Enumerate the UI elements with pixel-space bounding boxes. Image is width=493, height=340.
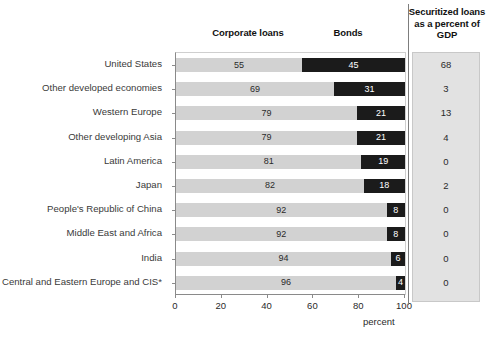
x-axis-tick-label: 20	[216, 300, 227, 311]
bar-segment-corporate-loans: 92	[176, 227, 387, 241]
bar-segment-bonds: 18	[364, 179, 405, 193]
x-axis-tick	[221, 294, 222, 298]
bar-segment-bonds: 31	[334, 82, 405, 96]
bar-segment-bonds: 6	[391, 252, 405, 266]
header-securitized-loans-percent-gdp: Securitized loans as a percent of GDP	[404, 6, 490, 41]
gdp-percent-value: 0	[413, 222, 479, 246]
bar-segment-corporate-loans: 96	[176, 276, 396, 290]
bar-segment-corporate-loans: 94	[176, 252, 391, 266]
stacked-bar: 7921	[176, 131, 405, 145]
bar-segment-corporate-loans: 79	[176, 106, 357, 120]
bar-segment-bonds: 4	[396, 276, 405, 290]
stacked-bar: 6931	[176, 82, 405, 96]
x-axis-tick	[358, 294, 359, 298]
stacked-bar: 7921	[176, 106, 405, 120]
bar-segment-corporate-loans: 82	[176, 179, 364, 193]
bar-segment-corporate-loans: 69	[176, 82, 334, 96]
bar-value-label: 92	[276, 230, 286, 239]
x-axis-tick	[312, 294, 313, 298]
bar-value-label: 21	[376, 133, 386, 142]
category-label-list: United StatesOther developed economiesWe…	[0, 52, 168, 294]
x-axis-tick-label: 60	[307, 300, 318, 311]
category-label: United States	[0, 52, 168, 76]
gdp-percent-column: 683134020000	[412, 52, 480, 302]
bar-value-label: 8	[393, 206, 398, 215]
gdp-percent-value: 4	[413, 126, 479, 150]
x-axis-tick-label: 40	[261, 300, 272, 311]
stacked-bar: 8218	[176, 179, 405, 193]
bar-value-label: 6	[396, 254, 401, 263]
x-axis-tick	[175, 294, 176, 298]
bar-value-label: 31	[364, 85, 374, 94]
x-axis: 020406080100	[175, 294, 405, 295]
gdp-percent-value: 3	[413, 77, 479, 101]
bar-value-label: 81	[264, 157, 274, 166]
category-label: Japan	[0, 173, 168, 197]
bar-segment-bonds: 21	[357, 131, 405, 145]
stacked-bar-chart-plot: 554569317921792181198218928928946964	[175, 52, 406, 295]
bar-value-label: 82	[265, 181, 275, 190]
bar-segment-bonds: 8	[387, 203, 405, 217]
bar-segment-bonds: 8	[387, 227, 405, 241]
bar-value-label: 96	[281, 278, 291, 287]
bar-row: 7921	[176, 126, 405, 150]
bar-segment-corporate-loans: 55	[176, 58, 302, 72]
bar-segment-corporate-loans: 92	[176, 203, 387, 217]
gdp-percent-value: 0	[413, 247, 479, 271]
x-axis-unit-label: percent	[363, 316, 395, 327]
bar-value-label: 79	[261, 133, 271, 142]
bar-segment-bonds: 21	[357, 106, 405, 120]
stacked-bar: 946	[176, 252, 405, 266]
category-label: India	[0, 246, 168, 270]
category-label: People's Republic of China	[0, 197, 168, 221]
gdp-percent-value: 0	[413, 271, 479, 295]
bar-row: 946	[176, 247, 405, 271]
gdp-percent-value: 13	[413, 101, 479, 125]
stacked-bar: 928	[176, 203, 405, 217]
x-axis-tick-label: 80	[353, 300, 364, 311]
x-axis-tick-label: 0	[172, 300, 177, 311]
bar-segment-corporate-loans: 81	[176, 155, 361, 169]
x-axis-tick-label: 100	[396, 300, 412, 311]
category-label: Other developed economies	[0, 76, 168, 100]
bar-value-label: 94	[279, 254, 289, 263]
bar-row: 928	[176, 198, 405, 222]
bar-value-label: 8	[393, 230, 398, 239]
bar-segment-bonds: 45	[302, 58, 405, 72]
category-label: Middle East and Africa	[0, 221, 168, 245]
x-axis-tick	[404, 294, 405, 298]
bar-row: 6931	[176, 77, 405, 101]
bar-row: 8119	[176, 150, 405, 174]
stacked-bar: 5545	[176, 58, 405, 72]
bar-row: 5545	[176, 53, 405, 77]
bar-value-label: 19	[378, 157, 388, 166]
gdp-percent-value: 0	[413, 198, 479, 222]
bar-value-label: 4	[398, 278, 403, 287]
gdp-percent-value: 68	[413, 53, 479, 77]
bar-segment-bonds: 19	[361, 155, 405, 169]
category-label: Central and Eastern Europe and CIS*	[0, 270, 168, 294]
panel-separator	[408, 4, 409, 305]
bar-value-label: 69	[250, 85, 260, 94]
bar-value-label: 18	[379, 181, 389, 190]
bar-segment-corporate-loans: 79	[176, 131, 357, 145]
category-label: Latin America	[0, 149, 168, 173]
stacked-bar: 8119	[176, 155, 405, 169]
header-corporate-loans: Corporate loans	[186, 27, 310, 38]
stacked-bar: 928	[176, 227, 405, 241]
bar-row: 7921	[176, 101, 405, 125]
bar-value-label: 21	[376, 109, 386, 118]
category-label: Other developing Asia	[0, 125, 168, 149]
bar-value-label: 55	[234, 61, 244, 70]
bar-value-label: 45	[348, 61, 358, 70]
category-label: Western Europe	[0, 100, 168, 124]
bar-row: 964	[176, 271, 405, 295]
stacked-bar: 964	[176, 276, 405, 290]
bar-value-label: 92	[276, 206, 286, 215]
x-axis-tick	[267, 294, 268, 298]
bar-value-label: 79	[261, 109, 271, 118]
gdp-percent-value: 0	[413, 150, 479, 174]
bar-row: 928	[176, 222, 405, 246]
bar-row: 8218	[176, 174, 405, 198]
gdp-percent-value: 2	[413, 174, 479, 198]
